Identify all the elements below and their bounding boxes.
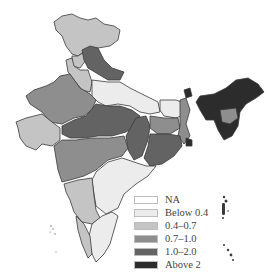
map-legend: NA Below 0.4 0.4–0.7 0.7–1.0 1.0–2.0 Abo… [134,193,208,271]
region-sundarbans[interactable] [186,138,192,146]
legend-item-above-2: Above 2 [134,258,208,271]
legend-item-0-7-1-0: 0.7–1.0 [134,232,208,245]
andaman-nicobar-islands [222,196,234,261]
legend-item-na: NA [134,193,208,206]
legend-label: Below 0.4 [165,206,208,219]
legend-label: 1.0–2.0 [165,245,197,258]
legend-label: 0.4–0.7 [165,219,197,232]
legend-swatch-0-4-0-7 [134,222,158,230]
legend-label: 0.7–1.0 [165,232,197,245]
lakshadweep-islands [49,225,56,252]
legend-swatch-na [134,196,158,204]
legend-swatch-below-0-4 [134,209,158,217]
legend-swatch-0-7-1-0 [134,235,158,243]
legend-label: Above 2 [165,258,201,271]
legend-item-below-0-4: Below 0.4 [134,206,208,219]
legend-label: NA [165,193,180,206]
legend-item-1-0-2-0: 1.0–2.0 [134,245,208,258]
region-odisha[interactable] [144,134,182,166]
legend-item-0-4-0-7: 0.4–0.7 [134,219,208,232]
region-jharkhand[interactable] [150,116,180,134]
legend-swatch-above-2 [134,261,158,269]
region-sikkim[interactable] [184,88,192,98]
legend-swatch-1-0-2-0 [134,248,158,256]
